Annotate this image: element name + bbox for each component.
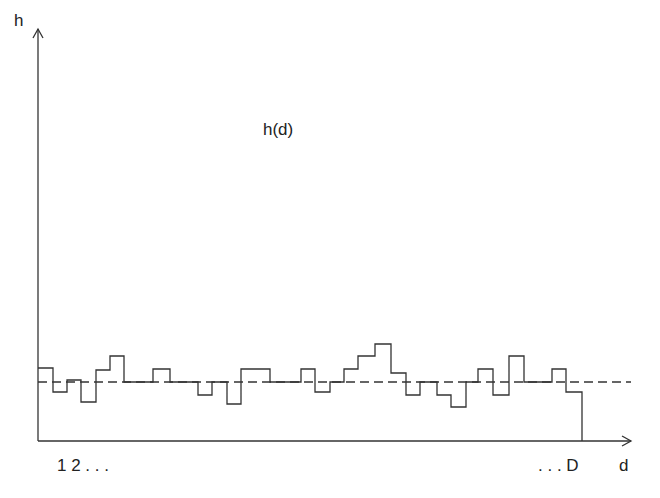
axes bbox=[33, 29, 631, 446]
step-function-diagram: h d h(d) 1 2 . . . . . . D bbox=[0, 0, 660, 498]
y-axis-label: h bbox=[14, 11, 23, 30]
x-tick-start-label: 1 2 . . . bbox=[57, 456, 109, 475]
x-tick-end-label: . . . D bbox=[538, 456, 579, 475]
step-curve bbox=[38, 344, 582, 441]
x-axis-label: d bbox=[619, 456, 628, 475]
curve-label: h(d) bbox=[263, 120, 293, 139]
